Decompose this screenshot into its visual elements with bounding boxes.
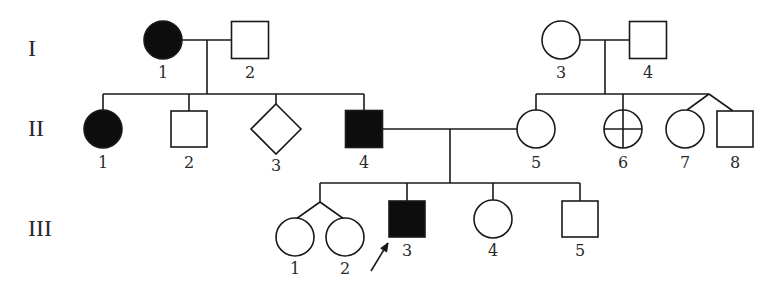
individual-number: 2 bbox=[245, 63, 255, 82]
individual-I-2[interactable]: 2 bbox=[232, 22, 269, 82]
individual-number: 4 bbox=[359, 153, 369, 172]
generation-label-II: II bbox=[28, 115, 44, 141]
individual-I-1[interactable]: 1 bbox=[144, 21, 182, 82]
individual-II-6[interactable]: 6 bbox=[604, 110, 642, 172]
individual-III-1[interactable]: 1 bbox=[276, 218, 314, 278]
female-symbol bbox=[326, 218, 364, 256]
individual-number: 4 bbox=[643, 63, 653, 82]
generation-label-III: III bbox=[28, 215, 52, 241]
individual-number: 8 bbox=[730, 153, 740, 172]
individual-I-4[interactable]: 4 bbox=[630, 22, 667, 82]
individual-number: 5 bbox=[575, 241, 585, 260]
twin-line-II7 bbox=[687, 94, 709, 110]
unknown-sex-symbol bbox=[251, 104, 301, 154]
individual-number: 3 bbox=[402, 241, 412, 260]
female-symbol bbox=[276, 218, 314, 256]
twin-line-III2 bbox=[320, 202, 344, 219]
arrow-head-icon bbox=[381, 243, 388, 252]
twin-line-II8 bbox=[709, 94, 733, 111]
individual-number: 3 bbox=[556, 63, 566, 82]
male-symbol bbox=[562, 201, 598, 237]
individual-III-4[interactable]: 4 bbox=[474, 200, 512, 260]
individual-number: 1 bbox=[158, 63, 168, 82]
individual-II-8[interactable]: 8 bbox=[717, 111, 753, 172]
twin-line-III1 bbox=[296, 202, 320, 219]
male-symbol bbox=[717, 111, 753, 147]
male-symbol bbox=[171, 111, 207, 147]
affected-female-symbol bbox=[84, 110, 122, 148]
individual-II-5[interactable]: 5 bbox=[517, 110, 555, 172]
individual-number: 1 bbox=[98, 153, 108, 172]
individual-III-3[interactable]: 3 bbox=[389, 201, 425, 260]
generation-label-I: I bbox=[28, 35, 36, 61]
individual-II-1[interactable]: 1 bbox=[84, 110, 122, 172]
pedigree-chart: IIIIII 12341234567812345 bbox=[0, 0, 784, 292]
individual-II-2[interactable]: 2 bbox=[171, 111, 207, 172]
individual-II-7[interactable]: 7 bbox=[666, 110, 704, 172]
individual-number: 3 bbox=[271, 156, 281, 175]
individual-II-3[interactable]: 3 bbox=[251, 104, 301, 175]
individual-number: 7 bbox=[680, 153, 690, 172]
female-symbol bbox=[474, 200, 512, 238]
female-symbol bbox=[542, 21, 580, 59]
male-symbol bbox=[232, 22, 269, 59]
individuals: 12341234567812345 bbox=[84, 21, 753, 278]
individual-number: 4 bbox=[488, 241, 498, 260]
individual-number: 1 bbox=[290, 259, 300, 278]
proband-arrow bbox=[371, 243, 388, 271]
individual-I-3[interactable]: 3 bbox=[542, 21, 580, 82]
individual-number: 2 bbox=[184, 153, 194, 172]
individual-number: 6 bbox=[618, 153, 628, 172]
individual-number: 2 bbox=[340, 259, 350, 278]
individual-III-5[interactable]: 5 bbox=[562, 201, 598, 260]
affected-female-symbol bbox=[144, 21, 182, 59]
generation-labels: IIIIII bbox=[28, 35, 52, 241]
female-symbol bbox=[517, 110, 555, 148]
female-symbol bbox=[666, 110, 704, 148]
individual-III-2[interactable]: 2 bbox=[326, 218, 364, 278]
male-symbol bbox=[630, 22, 667, 59]
affected-male-symbol bbox=[346, 111, 383, 148]
individual-number: 5 bbox=[531, 153, 541, 172]
affected-male-symbol bbox=[389, 201, 425, 237]
individual-II-4[interactable]: 4 bbox=[346, 111, 383, 172]
